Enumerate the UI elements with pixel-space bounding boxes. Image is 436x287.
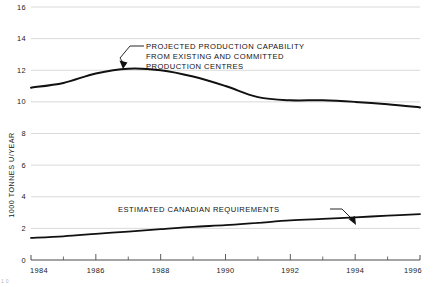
y-tick-label-6: 6 <box>21 161 26 170</box>
y-tick-label-0: 0 <box>21 256 26 265</box>
y-tick-label-8: 8 <box>21 129 26 138</box>
x-tick-label-1988: 1988 <box>152 266 170 275</box>
y-tick-label-10: 10 <box>17 97 26 106</box>
y-tick-label-2: 2 <box>21 224 26 233</box>
y-tick-label-12: 12 <box>17 66 26 75</box>
projected-production-annotation-line-1: PROJECTED PRODUCTION CAPABILITY <box>146 42 305 51</box>
projected-production-annotation-line-2: FROM EXISTING AND COMMITTED <box>146 52 284 61</box>
y-axis-label: 1000 TONNES U/YEAR <box>7 132 16 217</box>
y-tick-label-16: 16 <box>17 3 26 12</box>
x-tick-label-1990: 1990 <box>216 266 234 275</box>
x-tick-label-1992: 1992 <box>281 266 299 275</box>
x-tick-label-1996: 1996 <box>404 266 422 275</box>
x-tick-label-1994: 1994 <box>346 266 364 275</box>
chart-figure: 0246810121416 19841986198819901992199419… <box>0 0 436 287</box>
x-tick-label-1986: 1986 <box>87 266 105 275</box>
uranium-production-line-chart: 0246810121416 19841986198819901992199419… <box>0 0 436 287</box>
x-tick-label-1984: 1984 <box>30 266 48 275</box>
x-tick-label-group: 1984198619881990199219941996 <box>30 266 422 275</box>
projected-production-annotation-line-3: PRODUCTION CENTRES <box>146 62 244 71</box>
y-tick-label-14: 14 <box>17 34 26 43</box>
y-tick-label-4: 4 <box>21 192 26 201</box>
figure-corner-note: 1 0 <box>1 278 9 284</box>
estimated-requirements-annotation-line-1: ESTIMATED CANADIAN REQUIREMENTS <box>118 205 279 214</box>
